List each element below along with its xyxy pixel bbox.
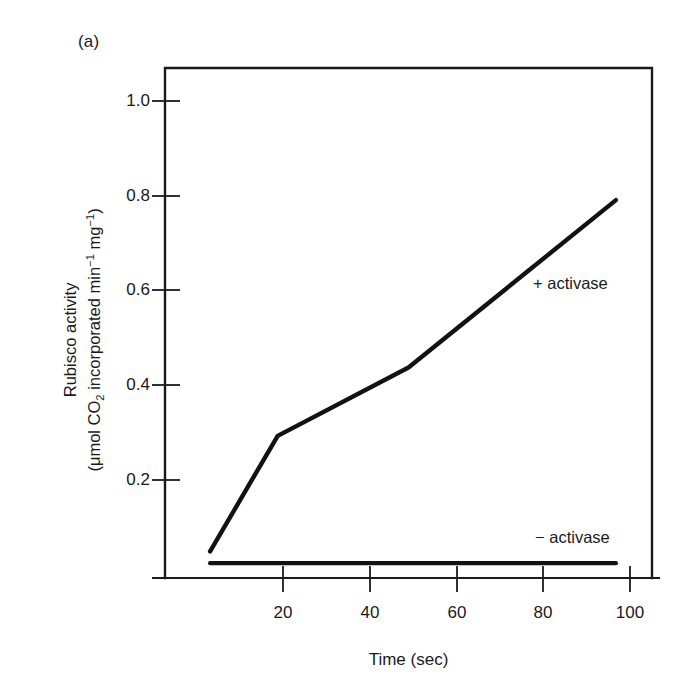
x-tick-label-80: 80 <box>508 603 578 623</box>
y-tick-label-0.2: 0.2 <box>88 470 150 490</box>
x-tick-label-group: 20 40 60 80 100 <box>0 603 693 629</box>
figure-panel-a: (a) Rubisco activity (μmol CO2 incorpora… <box>0 0 693 689</box>
x-tick-label-20: 20 <box>248 603 318 623</box>
series-line-plus-activase <box>210 200 616 551</box>
series-annotation-minus-activase: − activase <box>535 528 610 547</box>
x-axis-title: Time (sec) <box>165 650 652 670</box>
data-series-group <box>210 200 616 563</box>
y-axis-title-line1: Rubisco activity <box>59 130 83 550</box>
x-tick-label-100: 100 <box>595 603 665 623</box>
y-tick-label-0.8: 0.8 <box>88 186 150 206</box>
x-tick-marks <box>283 566 630 592</box>
x-tick-label-40: 40 <box>335 603 405 623</box>
x-tick-label-60: 60 <box>422 603 492 623</box>
y-tick-label-0.6: 0.6 <box>88 280 150 300</box>
series-annotation-plus-activase: + activase <box>533 274 608 293</box>
y-tick-label-group: 1.0 0.8 0.6 0.4 0.2 <box>88 0 150 689</box>
y-tick-label-0.4: 0.4 <box>88 375 150 395</box>
y-tick-label-1.0: 1.0 <box>88 91 150 111</box>
